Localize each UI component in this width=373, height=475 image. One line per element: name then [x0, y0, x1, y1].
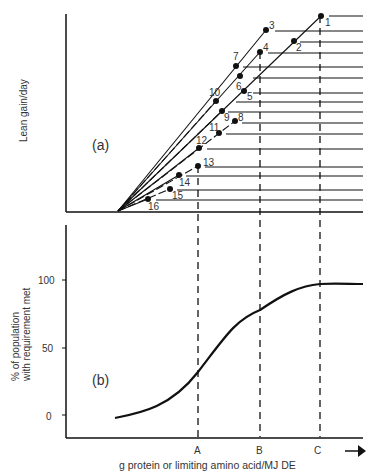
label-6: 6	[236, 81, 242, 92]
panel-b-xlabel: g protein or limiting amino acid/MJ DE	[119, 459, 296, 471]
label-5: 5	[247, 91, 253, 102]
figure: 1 2 3 4 5 6 7 8 9 10 11 12 13 14 15 16 (…	[0, 0, 373, 475]
label-14: 14	[179, 177, 191, 188]
label-15: 15	[172, 190, 184, 201]
label-13: 13	[203, 157, 215, 168]
panel-b-yticks: 100 50 0	[38, 275, 55, 422]
panel-b-ylabel-line1: % of population	[10, 312, 21, 381]
label-4: 4	[263, 42, 269, 53]
panel-b-xticks: A B C	[194, 445, 321, 456]
panel-a	[66, 13, 363, 212]
panel-b	[62, 225, 363, 438]
label-11: 11	[209, 122, 220, 133]
cumulative-curve	[115, 284, 363, 418]
label-1: 1	[325, 17, 331, 28]
xtick-C: C	[314, 445, 321, 456]
ytick-50: 50	[42, 343, 54, 354]
reference-lines	[198, 16, 320, 437]
point-labels: 1 2 3 4 5 6 7 8 9 10 11 12 13 14 15 16	[148, 17, 331, 212]
ytick-100: 100	[38, 275, 55, 286]
panel-a-ylabel: Lean gain/day	[18, 79, 29, 142]
xtick-B: B	[256, 445, 263, 456]
ytick-0: 0	[46, 411, 52, 422]
panel-b-label: (b)	[92, 372, 109, 388]
panel-b-ylabel-line2: with requirement met	[21, 287, 32, 382]
label-9: 9	[224, 112, 230, 123]
panel-a-label: (a)	[92, 137, 109, 153]
label-7: 7	[233, 51, 239, 62]
response-lines	[118, 16, 321, 211]
label-16: 16	[148, 201, 160, 212]
label-12: 12	[196, 135, 208, 146]
label-2: 2	[296, 42, 302, 53]
label-8: 8	[238, 112, 244, 123]
arrow-right-icon	[345, 445, 366, 457]
xtick-A: A	[194, 445, 201, 456]
label-3: 3	[269, 20, 275, 31]
label-10: 10	[209, 87, 221, 98]
